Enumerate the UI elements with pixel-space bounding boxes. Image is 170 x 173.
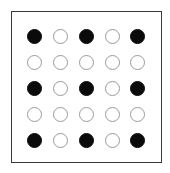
dot-filled bbox=[130, 29, 145, 44]
dot-open bbox=[79, 107, 94, 122]
dot-row bbox=[12, 81, 161, 96]
dot-filled bbox=[27, 81, 42, 96]
dot-matrix bbox=[12, 12, 161, 162]
dot-row bbox=[12, 55, 161, 70]
dot-open bbox=[105, 133, 120, 148]
dot-filled bbox=[130, 133, 145, 148]
dot-filled bbox=[79, 81, 94, 96]
dot-open bbox=[53, 133, 68, 148]
dot-open bbox=[53, 29, 68, 44]
dot-row bbox=[12, 133, 161, 148]
grid-frame-border bbox=[11, 11, 162, 163]
dot-open bbox=[130, 55, 145, 70]
dot-filled bbox=[27, 133, 42, 148]
dot-open bbox=[105, 29, 120, 44]
dot-open bbox=[27, 55, 42, 70]
dot-filled bbox=[130, 81, 145, 96]
figure-root bbox=[0, 0, 170, 173]
dot-open bbox=[79, 55, 94, 70]
dot-open bbox=[105, 81, 120, 96]
dot-open bbox=[53, 55, 68, 70]
dot-filled bbox=[79, 133, 94, 148]
dot-open bbox=[27, 107, 42, 122]
dot-filled bbox=[27, 29, 42, 44]
dot-open bbox=[53, 107, 68, 122]
dot-open bbox=[105, 55, 120, 70]
dot-open bbox=[53, 81, 68, 96]
dot-filled bbox=[79, 29, 94, 44]
dot-open bbox=[105, 107, 120, 122]
dot-row bbox=[12, 29, 161, 44]
dot-open bbox=[130, 107, 145, 122]
dot-row bbox=[12, 107, 161, 122]
